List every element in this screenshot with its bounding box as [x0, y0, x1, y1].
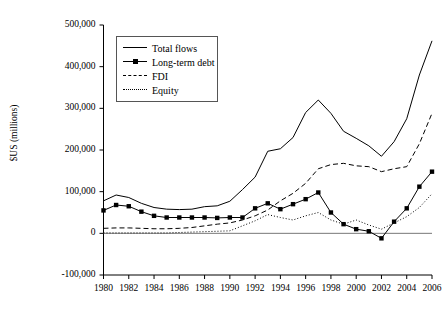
series-marker-long-term-debt: [303, 197, 307, 201]
y-tick-label: 0: [40, 227, 96, 237]
y-tick-label: 400,000: [40, 61, 96, 71]
series-marker-long-term-debt: [405, 206, 409, 210]
legend-item: Long-term debt: [122, 55, 212, 69]
series-marker-long-term-debt: [228, 215, 232, 219]
series-marker-long-term-debt: [253, 206, 257, 210]
legend-item: FDI: [122, 69, 212, 83]
series-marker-long-term-debt: [215, 216, 219, 220]
series-marker-long-term-debt: [278, 207, 282, 211]
series-marker-long-term-debt: [139, 209, 143, 213]
series-marker-long-term-debt: [266, 201, 270, 205]
legend-key-dotted-line: [122, 84, 148, 96]
series-line-fdi: [104, 113, 433, 228]
legend-label: Equity: [152, 85, 179, 96]
legend-key-solid-line: [122, 42, 148, 54]
series-marker-long-term-debt: [379, 236, 383, 240]
series-marker-long-term-debt: [127, 204, 131, 208]
series-marker-long-term-debt: [202, 215, 206, 219]
chart-figure: $US (millions) 500,000400,000300,000200,…: [0, 0, 444, 314]
series-marker-long-term-debt: [152, 214, 156, 218]
y-tick-label: 200,000: [40, 144, 96, 154]
series-line-equity: [104, 194, 433, 233]
legend-label: Long-term debt: [152, 57, 214, 68]
series-marker-long-term-debt: [354, 227, 358, 231]
y-tick-label: 500,000: [40, 19, 96, 29]
series-marker-long-term-debt: [190, 215, 194, 219]
series-marker-long-term-debt: [240, 215, 244, 219]
chart-legend: Total flowsLong-term debtFDIEquity: [116, 36, 218, 102]
series-marker-long-term-debt: [430, 169, 434, 173]
x-tick-label: 2006: [412, 283, 444, 293]
legend-item: Equity: [122, 83, 212, 97]
series-marker-long-term-debt: [417, 184, 421, 188]
legend-item: Total flows: [122, 41, 212, 55]
series-marker-long-term-debt: [114, 203, 118, 207]
y-tick-label: 300,000: [40, 102, 96, 112]
series-marker-long-term-debt: [164, 215, 168, 219]
legend-key-dashed-line: [122, 70, 148, 82]
legend-square-marker: [133, 59, 138, 64]
y-tick-label: 100,000: [40, 186, 96, 196]
series-marker-long-term-debt: [101, 208, 105, 212]
series-marker-long-term-debt: [316, 190, 320, 194]
series-marker-long-term-debt: [367, 229, 371, 233]
series-marker-long-term-debt: [177, 215, 181, 219]
plot-area: [0, 0, 444, 314]
y-tick-label: -100,000: [40, 269, 96, 279]
legend-label: FDI: [152, 71, 168, 82]
series-marker-long-term-debt: [291, 202, 295, 206]
series-marker-long-term-debt: [329, 210, 333, 214]
legend-label: Total flows: [152, 43, 197, 54]
legend-key-solid-line-square-marker: [122, 56, 148, 68]
